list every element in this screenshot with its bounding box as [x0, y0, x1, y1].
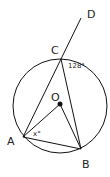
- angle-label-a: x°: [33, 130, 41, 138]
- label-c: C: [51, 44, 59, 57]
- radius-ob: [60, 104, 81, 149]
- line-cd: [61, 18, 81, 59]
- label-b: B: [82, 158, 90, 171]
- label-o: O: [51, 91, 60, 104]
- radius-oa: [23, 104, 60, 137]
- chord-cb: [61, 59, 81, 149]
- circle-geometry-diagram: D C O A B 128° x°: [0, 0, 110, 177]
- angle-label-c: 128°: [68, 62, 85, 70]
- label-a: A: [7, 135, 15, 148]
- label-d: D: [87, 8, 95, 21]
